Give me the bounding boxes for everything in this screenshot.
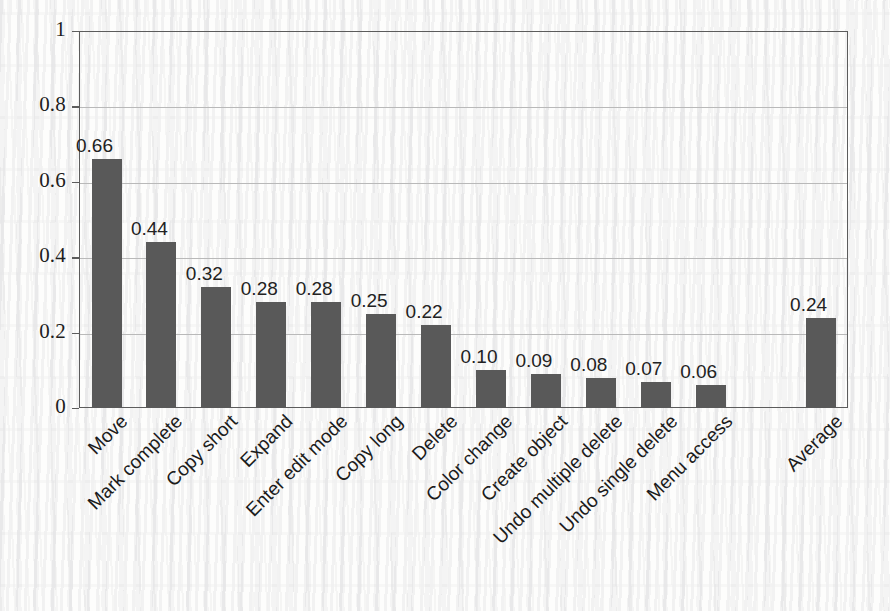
bar-slot: 0.09: [518, 31, 574, 408]
x-axis-category-label-text: Average: [781, 411, 846, 476]
y-axis-tick-mark: [72, 182, 79, 183]
y-axis-tick-label: 0.6: [4, 168, 66, 193]
bar-slot: 0.06: [683, 31, 739, 408]
bar-slot: 0.28: [299, 31, 355, 408]
bar-slot: 0.44: [134, 31, 190, 408]
bar-slot: 0.32: [189, 31, 245, 408]
bar[interactable]: [366, 314, 396, 408]
y-axis-tick-mark: [72, 408, 79, 409]
bar[interactable]: [311, 302, 341, 408]
y-axis: 00.20.40.60.81: [0, 0, 79, 440]
y-axis-tick-mark: [72, 333, 79, 334]
bars-layer: 0.660.440.320.280.280.250.220.100.090.08…: [79, 31, 848, 408]
bar-value-label: 0.10: [452, 346, 507, 368]
bar-slot: 0.28: [244, 31, 300, 408]
y-axis-tick-label: 1: [4, 17, 66, 42]
bar[interactable]: [201, 287, 231, 408]
bar-value-label: 0.22: [397, 301, 452, 323]
bar[interactable]: [696, 385, 726, 408]
bar[interactable]: [92, 159, 122, 408]
y-axis-tick-label: 0.4: [4, 243, 66, 268]
bar[interactable]: [641, 382, 671, 408]
bar-value-label: 0.09: [506, 350, 561, 372]
bar-slot: 0.07: [628, 31, 684, 408]
bar[interactable]: [421, 325, 451, 408]
x-axis-category-label: Move: [86, 412, 134, 460]
bar-value-label: 0.28: [232, 278, 287, 300]
bar[interactable]: [256, 302, 286, 408]
y-axis-tick-label: 0: [4, 394, 66, 419]
bar[interactable]: [146, 242, 176, 408]
y-axis-tick-mark: [72, 257, 79, 258]
bar[interactable]: [586, 378, 616, 408]
bar-value-label: 0.06: [671, 361, 726, 383]
bar-value-label: 0.28: [287, 278, 342, 300]
x-axis-category-label-text: Move: [84, 411, 132, 459]
bar-value-label: 0.32: [177, 263, 232, 285]
bar-slot: 0.25: [354, 31, 410, 408]
bar-value-label: 0.24: [781, 294, 836, 316]
bar-slot: 0.08: [573, 31, 629, 408]
bar-value-label: 0.08: [561, 354, 616, 376]
y-axis-tick-mark: [72, 31, 79, 32]
bar[interactable]: [476, 370, 506, 408]
x-axis-labels: MoveMark completeCopy shortExpandEnter e…: [79, 412, 848, 607]
bar[interactable]: [531, 374, 561, 408]
y-axis-tick-label: 0.8: [4, 92, 66, 117]
bar-slot: 0.24: [793, 31, 849, 408]
bar-value-label: 0.25: [342, 290, 397, 312]
bar-chart: 00.20.40.60.81 0.660.440.320.280.280.250…: [0, 0, 890, 611]
x-axis-category-label: Average: [783, 412, 848, 477]
y-axis-tick-mark: [72, 106, 79, 107]
bar-value-label: 0.44: [122, 218, 177, 240]
y-axis-tick-label: 0.2: [4, 319, 66, 344]
bar-value-label: 0.07: [616, 358, 671, 380]
bar[interactable]: [806, 318, 836, 408]
bar-value-label: 0.66: [67, 135, 122, 157]
